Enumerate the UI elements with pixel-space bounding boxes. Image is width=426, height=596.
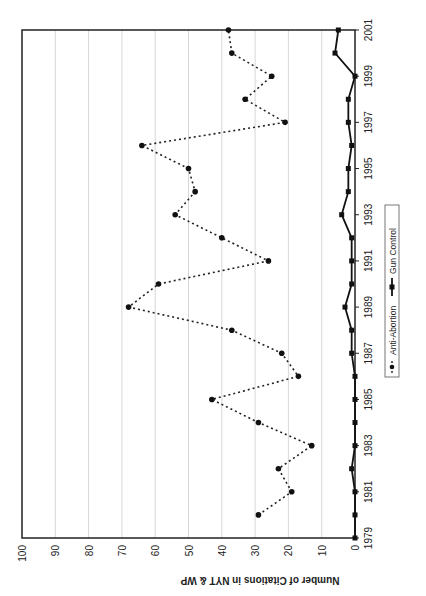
y-tick-label: 100 — [17, 545, 28, 562]
y-tick-label: 90 — [50, 545, 61, 557]
y-tick-label: 60 — [150, 545, 161, 557]
series-anti-abortion — [126, 27, 315, 518]
x-tick-label: 1979 — [363, 526, 374, 549]
x-tick-label: 1991 — [363, 249, 374, 272]
gridlines — [55, 30, 321, 538]
y-axis-ticks: 0102030405060708090100 — [17, 545, 361, 562]
y-tick-label: 40 — [217, 545, 228, 557]
y-tick-label: 30 — [250, 545, 261, 557]
x-tick-label: 1983 — [363, 434, 374, 457]
x-tick-label: 1995 — [363, 157, 374, 180]
series — [126, 27, 358, 540]
y-tick-label: 70 — [117, 545, 128, 557]
y-tick-label: 50 — [184, 545, 195, 557]
y-tick-label: 0 — [350, 545, 361, 551]
y-tick-label: 20 — [283, 545, 294, 557]
series-gun-control — [333, 28, 358, 541]
y-tick-label: 10 — [317, 545, 328, 557]
x-tick-label: 1997 — [363, 111, 374, 134]
legend-anti-abortion: Anti-Abortion — [388, 306, 398, 355]
x-axis-ticks: 1979198119831985198719891991199319951997… — [355, 18, 374, 549]
x-tick-label: 2001 — [363, 18, 374, 41]
x-tick-label: 1993 — [363, 203, 374, 226]
legend: Anti-AbortionGun Control — [385, 205, 399, 377]
line-chart: 0102030405060708090100 19791981198319851… — [0, 0, 426, 596]
y-axis-label: Number of Citations in NYT & WP — [180, 575, 339, 586]
x-tick-label: 1985 — [363, 388, 374, 411]
legend-gun-control: Gun Control — [388, 228, 398, 274]
x-tick-label: 1981 — [363, 480, 374, 503]
x-tick-label: 1987 — [363, 342, 374, 365]
x-tick-label: 1989 — [363, 296, 374, 319]
x-tick-label: 1999 — [363, 65, 374, 88]
y-tick-label: 80 — [84, 545, 95, 557]
